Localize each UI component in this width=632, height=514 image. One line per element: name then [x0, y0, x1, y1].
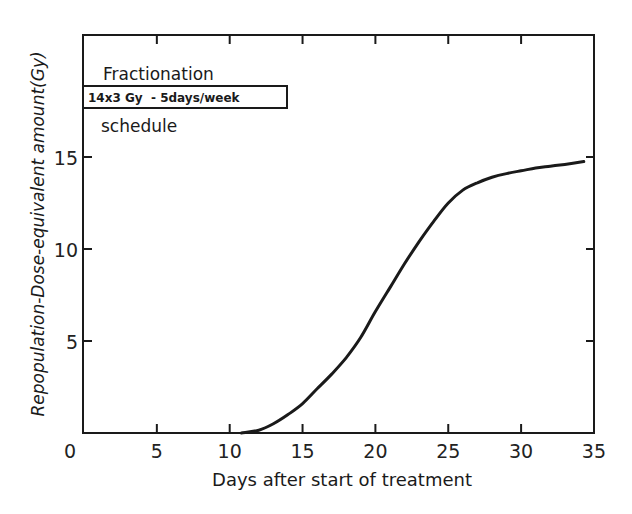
x-tick-label: 30 — [509, 440, 533, 462]
annotation-schedule: schedule — [101, 116, 177, 136]
x-tick-label: 5 — [151, 440, 163, 462]
y-tick-label: 10 — [54, 239, 78, 261]
annotation-schedule-detail: 14x3 Gy - 5days/week — [88, 91, 241, 105]
x-tick-label: 0 — [64, 440, 76, 462]
x-tick-label: 10 — [218, 440, 242, 462]
x-tick-label: 20 — [363, 440, 387, 462]
x-tick-label: 25 — [436, 440, 460, 462]
y-axis-tick-labels: 51015 — [54, 147, 78, 353]
x-axis-title: Days after start of treatment — [212, 469, 472, 490]
chart: 05101520253035 51015 Fractionation 14x3 … — [0, 0, 632, 514]
y-tick-label: 5 — [66, 331, 78, 353]
y-axis-title: Repopulation-Dose-equivalent amount(Gy) — [28, 51, 48, 416]
x-tick-label: 35 — [582, 440, 606, 462]
data-line — [241, 162, 583, 433]
annotation-fractionation: Fractionation — [103, 64, 214, 84]
y-tick-label: 15 — [54, 147, 78, 169]
x-axis-tick-labels: 05101520253035 — [64, 440, 606, 462]
x-tick-label: 15 — [290, 440, 314, 462]
y-axis-ticks — [84, 157, 594, 341]
